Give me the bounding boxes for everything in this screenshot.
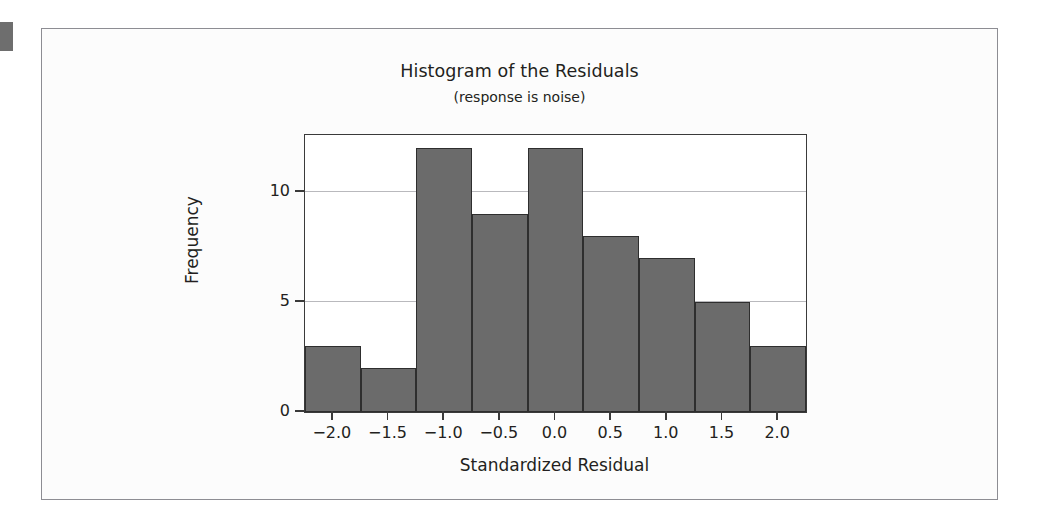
x-tick-mark [554,411,555,420]
histogram-bar [305,346,361,412]
chart-subtitle: (response is noise) [42,89,997,105]
plot-area [304,134,807,413]
y-tick-mark [295,300,304,301]
x-tick-label: 0.5 [597,423,622,442]
y-axis: Frequency 0510 [192,134,304,411]
x-tick-mark [721,411,722,420]
x-tick-label: −2.0 [312,423,351,442]
x-axis: Standardized Residual −2.0−1.5−1.0−0.50.… [304,411,805,491]
histogram-bar [750,346,806,412]
y-axis-label: Frequency [182,196,202,284]
histogram-bars [305,135,806,412]
x-tick-mark [387,411,388,420]
x-tick-mark [331,411,332,420]
histogram-bar [528,148,584,412]
chart-title: Histogram of the Residuals [42,61,997,81]
x-tick-label: 2.0 [764,423,789,442]
x-tick-mark [442,411,443,420]
x-tick-label: −1.5 [368,423,407,442]
y-tick-label: 5 [232,291,290,310]
x-tick-label: −1.0 [424,423,463,442]
y-tick-label: 10 [232,181,290,200]
x-tick-mark [776,411,777,420]
x-tick-mark [498,411,499,420]
x-tick-label: 0.0 [542,423,567,442]
histogram-bar [695,302,751,412]
page-edge-tab-marker [0,22,13,51]
figure-container: Histogram of the Residuals (response is … [41,28,998,500]
histogram-bar [639,258,695,412]
x-tick-label: 1.5 [709,423,734,442]
histogram-bar [416,148,472,412]
histogram-bar [583,236,639,412]
histogram-bar [472,214,528,412]
x-tick-label: 1.0 [653,423,678,442]
y-tick-label: 0 [232,401,290,420]
y-tick-mark [295,190,304,191]
histogram-bar [361,368,417,412]
x-axis-label: Standardized Residual [304,455,805,475]
x-tick-mark [665,411,666,420]
y-tick-mark [295,410,304,411]
x-tick-mark [609,411,610,420]
x-tick-label: −0.5 [479,423,518,442]
